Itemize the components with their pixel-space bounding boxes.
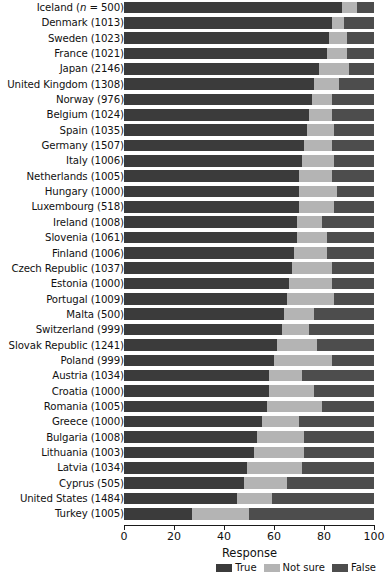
bar-row: Sweden (1023)	[0, 31, 382, 46]
x-axis-tick	[124, 526, 125, 530]
bar-segment-true	[124, 493, 237, 505]
bar-segment-not-sure	[254, 447, 304, 459]
stacked-bar	[124, 170, 374, 182]
bar-segment-not-sure	[257, 431, 305, 443]
bar-segment-false	[332, 140, 375, 152]
bar-segment-true	[124, 2, 342, 14]
bar-row-label: Greece (1000)	[52, 414, 124, 429]
bar-segment-false	[344, 17, 374, 29]
legend-label: Not sure	[283, 563, 325, 573]
bar-segment-false	[334, 201, 374, 213]
bar-segment-false	[322, 401, 375, 413]
bar-segment-not-sure	[342, 2, 357, 14]
bar-segment-true	[124, 63, 319, 75]
plot-area: Iceland (n = 500)Denmark (1013)Sweden (1…	[0, 0, 382, 524]
bar-segment-true	[124, 94, 312, 106]
bar-segment-not-sure	[297, 232, 327, 244]
bar-segment-false	[357, 2, 375, 14]
bar-segment-false	[334, 124, 374, 136]
bar-row-label: Switzerland (999)	[36, 322, 124, 337]
bar-segment-not-sure	[302, 155, 335, 167]
stacked-bar	[124, 48, 374, 60]
x-axis-tick-label: 100	[364, 530, 385, 543]
legend-swatch-icon	[264, 564, 280, 572]
bar-segment-true	[124, 370, 269, 382]
bar-segment-true	[124, 447, 254, 459]
bar-segment-not-sure	[299, 201, 334, 213]
bar-row-label: Ireland (1008)	[53, 215, 124, 230]
bar-segment-not-sure	[274, 355, 332, 367]
bar-segment-not-sure	[327, 48, 347, 60]
bar-row-label: Italy (1006)	[66, 153, 124, 168]
bar-row: Poland (999)	[0, 353, 382, 368]
stacked-bar	[124, 508, 374, 520]
bar-row-label: Estonia (1000)	[51, 276, 124, 291]
bar-segment-false	[332, 109, 375, 121]
bar-segment-true	[124, 124, 307, 136]
bar-segment-true	[124, 170, 299, 182]
bar-row-label: Lithuania (1003)	[41, 445, 124, 460]
bar-segment-true	[124, 48, 327, 60]
bar-segment-true	[124, 385, 269, 397]
stacked-bar	[124, 94, 374, 106]
bar-segment-false	[299, 416, 374, 428]
bar-segment-not-sure	[277, 339, 317, 351]
bar-row: Ireland (1008)	[0, 215, 382, 230]
stacked-bar	[124, 493, 374, 505]
bar-segment-not-sure	[294, 247, 327, 259]
bar-row: Portugal (1009)	[0, 292, 382, 307]
x-axis-tick-label: 0	[121, 530, 128, 543]
bar-segment-true	[124, 477, 244, 489]
bar-segment-false	[327, 247, 375, 259]
bar-row: United States (1484)	[0, 491, 382, 506]
bar-segment-not-sure	[287, 293, 335, 305]
stacked-bar	[124, 140, 374, 152]
stacked-bar	[124, 63, 374, 75]
x-axis-tick-label: 20	[167, 530, 181, 543]
x-axis-tick-label: 60	[267, 530, 281, 543]
bar-segment-not-sure	[267, 401, 322, 413]
bar-row-label: Poland (999)	[61, 353, 124, 368]
bar-row-label: Slovak Republic (1241)	[9, 338, 124, 353]
bar-row: Turkey (1005)	[0, 506, 382, 521]
bar-segment-false	[309, 324, 374, 336]
stacked-bar	[124, 216, 374, 228]
bar-segment-not-sure	[262, 416, 300, 428]
bar-segment-true	[124, 416, 262, 428]
bar-segment-true	[124, 339, 277, 351]
bar-row-label: Turkey (1005)	[55, 506, 124, 521]
bar-segment-not-sure	[319, 63, 349, 75]
stacked-bar	[124, 32, 374, 44]
bar-segment-false	[317, 339, 375, 351]
bar-segment-true	[124, 262, 292, 274]
bar-segment-true	[124, 140, 304, 152]
bar-row: Japan (2146)	[0, 61, 382, 76]
bar-segment-not-sure	[284, 308, 314, 320]
bar-segment-true	[124, 32, 329, 44]
bar-row: Slovak Republic (1241)	[0, 338, 382, 353]
legend-label: True	[235, 563, 256, 573]
stacked-bar	[124, 416, 374, 428]
bar-row: Iceland (n = 500)	[0, 0, 382, 15]
x-axis-tick	[374, 526, 375, 530]
bar-segment-false	[349, 63, 374, 75]
bar-segment-true	[124, 247, 294, 259]
bar-row-label: Spain (1035)	[60, 123, 124, 138]
bar-segment-true	[124, 508, 192, 520]
bar-segment-true	[124, 278, 289, 290]
stacked-bar	[124, 155, 374, 167]
bar-row: Greece (1000)	[0, 414, 382, 429]
bar-segment-false	[304, 447, 374, 459]
bar-segment-true	[124, 293, 287, 305]
bar-segment-not-sure	[332, 17, 345, 29]
bar-segment-not-sure	[244, 477, 287, 489]
bar-row: Germany (1507)	[0, 138, 382, 153]
bar-segment-false	[322, 216, 375, 228]
bar-row-label: United Kingdom (1308)	[7, 77, 124, 92]
stacked-bar	[124, 17, 374, 29]
bar-segment-false	[314, 385, 374, 397]
bar-segment-not-sure	[282, 324, 310, 336]
bar-segment-true	[124, 109, 309, 121]
legend-swatch-icon	[332, 564, 348, 572]
